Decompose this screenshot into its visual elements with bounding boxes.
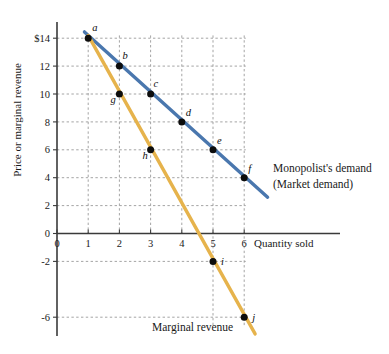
data-point-label-c: c — [154, 78, 159, 89]
series-annotation-1: (Market demand) — [273, 178, 353, 191]
y-tick-label: -6 — [41, 312, 50, 323]
data-point-f — [241, 174, 248, 181]
x-axis-title: Quantity sold — [254, 237, 314, 249]
grid-lines — [57, 38, 246, 317]
y-tick-label: -2 — [41, 256, 50, 267]
data-point-label-f: f — [248, 163, 253, 174]
y-tick-label: 4 — [45, 172, 51, 183]
x-tick-label: 3 — [148, 238, 153, 249]
x-tick-label: 4 — [179, 238, 185, 249]
data-point-label-i: i — [221, 256, 224, 267]
y-tick-label: 2 — [45, 200, 50, 211]
series-annotation-0: Monopolist's demand — [273, 162, 372, 175]
chart-plot-area: 0123456 $14121086420-2-6 abcdefghij Mono… — [0, 0, 389, 354]
y-tick-label: 0 — [45, 228, 50, 239]
x-axis-ticks: 0123456 — [54, 230, 246, 249]
data-point-c — [147, 91, 154, 98]
y-tick-label: 10 — [40, 89, 51, 100]
series-annotation-2: Marginal revenue — [152, 321, 233, 334]
y-tick-label: 6 — [45, 144, 50, 155]
data-point-a — [85, 35, 92, 42]
x-tick-label: 2 — [117, 238, 122, 249]
series-line-marginal-revenue — [88, 35, 255, 334]
series-line-demand — [84, 32, 267, 197]
data-point-label-d: d — [186, 107, 192, 118]
data-point-label-j: j — [250, 312, 255, 323]
data-point-label-b: b — [122, 50, 127, 61]
y-axis-ticks: $14121086420-2-6 — [34, 33, 57, 323]
data-points: abcdefghij — [85, 22, 256, 323]
data-point-d — [178, 118, 185, 125]
x-tick-label: 5 — [210, 238, 215, 249]
y-tick-label: $14 — [34, 33, 51, 44]
data-point-label-g: g — [110, 94, 115, 105]
data-point-label-e: e — [217, 135, 222, 146]
data-point-g — [116, 91, 123, 98]
data-point-b — [116, 63, 123, 70]
data-point-e — [210, 146, 217, 153]
data-point-j — [241, 314, 248, 321]
data-point-i — [210, 258, 217, 265]
y-tick-label: 12 — [40, 61, 51, 72]
data-point-label-a: a — [92, 22, 97, 33]
x-tick-label: 0 — [54, 238, 59, 249]
data-point-label-h: h — [143, 150, 148, 161]
chart-figure: Price or marginal revenue 0123456 $14121… — [0, 0, 389, 354]
y-tick-label: 8 — [45, 117, 50, 128]
x-tick-label: 6 — [242, 238, 247, 249]
data-point-h — [147, 146, 154, 153]
x-tick-label: 1 — [86, 238, 91, 249]
data-series-lines — [84, 32, 267, 334]
